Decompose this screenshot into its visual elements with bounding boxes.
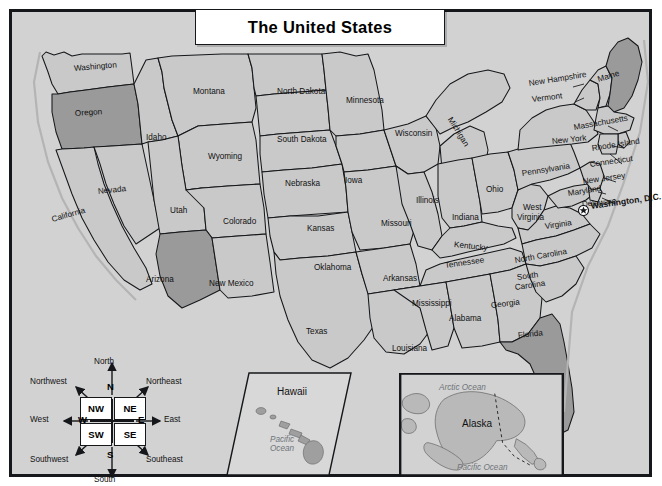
compass-rose: NW NE SW SE N S E W North South East Wes… xyxy=(30,357,195,485)
compass-name-west: West xyxy=(30,415,49,424)
compass-name-east: East xyxy=(164,415,180,424)
state-label-west: West xyxy=(523,204,542,213)
hawaii-label: Hawaii xyxy=(277,387,307,398)
state-label-massachusetts: Massachusetts xyxy=(573,115,628,133)
state-label-south-dakota: South Dakota xyxy=(277,136,327,145)
state-label-carolina: Carolina xyxy=(514,280,545,293)
state-label-montana: Montana xyxy=(193,88,225,97)
state-label-colorado: Colorado xyxy=(223,218,256,227)
compass-name-north: North xyxy=(94,357,114,366)
state-label-north-carolina: North Carolina xyxy=(514,248,567,266)
state-label-new-jersey: New Jersey xyxy=(582,172,626,186)
compass-name-southwest: Southwest xyxy=(30,455,68,464)
state-label-missouri: Missouri xyxy=(381,220,411,229)
state-label-louisiana: Louisiana xyxy=(392,345,427,354)
compass-box-se: SE xyxy=(114,423,146,446)
state-label-north-dakota: North Dakota xyxy=(277,88,325,97)
compass-name-southeast: Southeast xyxy=(146,455,183,464)
state-label-utah: Utah xyxy=(170,207,187,216)
state-label-nebraska: Nebraska xyxy=(285,180,320,189)
state-label-alabama: Alabama xyxy=(449,315,481,324)
map-title-plate: The United States xyxy=(195,9,445,45)
compass-name-northwest: Northwest xyxy=(30,377,67,386)
state-label-tennessee: Tennessee xyxy=(444,257,484,271)
alaska-arctic-ocean-label: Arctic Ocean xyxy=(439,384,486,393)
state-label-maryland: Maryland xyxy=(567,185,602,199)
state-label-texas: Texas xyxy=(306,328,327,337)
state-label-ohio: Ohio xyxy=(486,186,503,195)
state-label-wisconsin: Wisconsin xyxy=(395,130,432,139)
state-label-new-york: New York xyxy=(552,134,587,146)
state-label-new-hampshire: New Hampshire xyxy=(528,71,587,89)
state-label-vermont: Vermont xyxy=(531,92,562,104)
state-label-virginia: Virginia xyxy=(544,219,572,231)
state-label-maine: Maine xyxy=(597,70,621,85)
state-label-kentucky: Kentucky xyxy=(454,241,488,253)
state-label-nevada: Nevada xyxy=(98,185,127,197)
state-label-wyoming: Wyoming xyxy=(208,153,242,162)
state-label-georgia: Georgia xyxy=(490,298,520,310)
state-label-new-mexico: New Mexico xyxy=(209,280,254,289)
state-label-kansas: Kansas xyxy=(307,225,334,234)
state-label-connecticut: Connecticut xyxy=(589,155,633,170)
compass-letter-e: E xyxy=(138,414,144,425)
alaska-pacific-ocean-label: Pacific Ocean xyxy=(457,464,508,473)
compass-name-south: South xyxy=(94,475,115,484)
compass-letter-n: N xyxy=(107,381,114,392)
compass-box-sw: SW xyxy=(80,423,112,446)
state-label-washington: Washington xyxy=(74,61,118,73)
state-label-mississippi: Mississippi xyxy=(412,300,452,309)
state-label-illinois: Illinois xyxy=(416,197,439,206)
state-label-virginia: Virginia xyxy=(517,214,544,223)
alaska-label: Alaska xyxy=(462,419,492,430)
compass-letter-s: S xyxy=(107,449,113,460)
state-label-indiana: Indiana xyxy=(452,214,479,223)
state-label-iowa: Iowa xyxy=(345,177,362,186)
state-label-florida: Florida xyxy=(518,329,544,340)
capital-star-icon xyxy=(578,205,589,216)
state-label-arizona: Arizona xyxy=(146,276,174,285)
page-title: The United States xyxy=(248,18,392,37)
state-label-oregon: Oregon xyxy=(75,108,103,118)
state-label-oklahoma: Oklahoma xyxy=(314,264,351,273)
compass-name-northeast: Northeast xyxy=(146,377,182,386)
state-label-california: California xyxy=(51,207,87,225)
compass-letter-w: W xyxy=(78,414,87,425)
map-frame: WashingtonOregonCaliforniaNevadaIdahoMon… xyxy=(9,9,652,477)
state-label-rhode-island: Rhode Island xyxy=(591,138,640,154)
state-label-idaho: Idaho xyxy=(146,134,167,143)
hawaii-ocean-label: Pacific Ocean xyxy=(262,436,302,453)
state-label-michigan: Michigan xyxy=(445,116,470,148)
state-label-arkansas: Arkansas xyxy=(383,275,417,284)
state-label-pennsylvania: Pennsylvania xyxy=(521,162,570,178)
state-label-minnesota: Minnesota xyxy=(346,97,384,106)
